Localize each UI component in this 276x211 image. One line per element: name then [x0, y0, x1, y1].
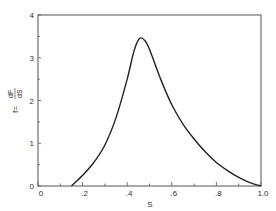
- y-tick-label: 4: [30, 11, 35, 20]
- x-tick-label: .2: [81, 189, 88, 198]
- y-axis-label: f= dF dS: [7, 88, 23, 113]
- svg-text:f=: f=: [11, 106, 20, 113]
- svg-text:dF: dF: [7, 90, 14, 98]
- chart: 0.2.4.6.81.0 01234 S f= dF dS: [0, 0, 276, 211]
- x-axis-label: S: [147, 200, 152, 209]
- y-tick-label: 1: [30, 139, 35, 148]
- x-tick-label: 0: [39, 189, 44, 198]
- y-tick-label: 0: [30, 182, 35, 191]
- y-tick-label: 2: [30, 97, 35, 106]
- svg-text:dS: dS: [16, 89, 23, 98]
- x-tick-label: .4: [126, 189, 133, 198]
- x-tick-label: 1.0: [257, 189, 269, 198]
- y-tick-label: 3: [30, 54, 35, 63]
- y-axis: 01234: [30, 11, 41, 191]
- plot-frame: [38, 15, 261, 186]
- f-curve: [71, 38, 261, 186]
- x-tick-label: .8: [215, 189, 222, 198]
- x-tick-label: .6: [170, 189, 177, 198]
